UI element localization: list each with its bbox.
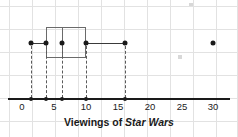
axis-dot-median — [60, 97, 64, 101]
marker-q3 — [84, 41, 89, 46]
box-iqr — [46, 27, 86, 58]
axis-dot-minimum — [29, 97, 33, 101]
caption-emphasis: Star Wars — [125, 116, 174, 128]
dropline-q1 — [46, 46, 47, 98]
x-axis-line — [8, 98, 230, 100]
caption-prefix: Viewings of — [64, 116, 125, 128]
x-tick-label-30: 30 — [208, 101, 219, 112]
whisker-right — [86, 43, 125, 44]
x-tick-label-20: 20 — [145, 101, 156, 112]
axis-dot-maximum — [123, 97, 127, 101]
axis-dot-q1 — [44, 97, 48, 101]
marker-median — [60, 41, 65, 46]
dropline-maximum — [125, 46, 126, 98]
x-axis-caption: Viewings of Star Wars — [0, 116, 238, 128]
marker-outlier-30 — [211, 41, 216, 46]
marker-minimum — [29, 41, 34, 46]
marker-maximum — [123, 41, 128, 46]
x-tick-label-25: 25 — [177, 101, 188, 112]
marker-q1 — [44, 41, 49, 46]
dropline-median — [62, 46, 63, 98]
dropline-minimum — [31, 46, 32, 98]
x-tick-label-5: 5 — [51, 101, 56, 112]
dropline-q3 — [86, 46, 87, 98]
box-plot-figure: 0 5 10 15 20 25 30 Viewings of Star Wars — [0, 0, 238, 137]
x-tick-label-0: 0 — [19, 101, 24, 112]
x-tick-label-10: 10 — [81, 101, 92, 112]
x-tick-label-15: 15 — [113, 101, 124, 112]
